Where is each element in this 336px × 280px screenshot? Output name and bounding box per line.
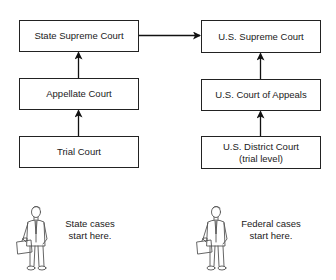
state-supreme-court-label: State Supreme Court: [34, 30, 123, 42]
state-cases-caption: State cases start here.: [60, 218, 120, 242]
appellate-court-box: Appellate Court: [19, 78, 139, 110]
us-supreme-court-box: U.S. Supreme Court: [201, 20, 321, 53]
us-district-court-sublabel: (trial level): [239, 153, 283, 165]
businessman-with-briefcase-icon: [14, 204, 58, 276]
us-court-of-appeals-box: U.S. Court of Appeals: [201, 79, 321, 111]
trial-court-box: Trial Court: [19, 136, 139, 168]
federal-caption-line1: Federal cases: [236, 218, 306, 230]
appellate-court-label: Appellate Court: [46, 88, 111, 100]
us-district-court-box: U.S. District Court (trial level): [201, 136, 321, 169]
state-caption-line2: start here.: [60, 230, 120, 242]
state-caption-line1: State cases: [60, 218, 120, 230]
trial-court-label: Trial Court: [57, 146, 101, 158]
us-court-of-appeals-label: U.S. Court of Appeals: [215, 89, 306, 101]
federal-cases-caption: Federal cases start here.: [236, 218, 306, 242]
state-supreme-court-box: State Supreme Court: [19, 20, 139, 52]
us-district-court-label: U.S. District Court: [223, 141, 299, 153]
us-supreme-court-label: U.S. Supreme Court: [218, 31, 304, 43]
federal-caption-line2: start here.: [236, 230, 306, 242]
businessman-with-briefcase-icon: [194, 204, 238, 276]
